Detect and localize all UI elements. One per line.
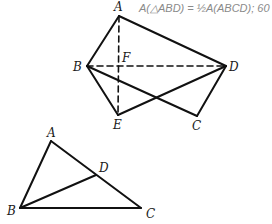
label-D2: D	[98, 161, 109, 175]
segment-AB	[87, 16, 119, 66]
label-B1: B	[72, 60, 82, 74]
segment-ED	[118, 66, 226, 115]
segment-AD	[119, 16, 226, 66]
geometry-figures: A B D F E C A B C D	[0, 0, 272, 224]
label-F1: F	[121, 51, 131, 65]
figure-2-triangle	[20, 141, 141, 208]
dashed-altitude-AE	[118, 16, 119, 115]
segment-AB-2	[20, 141, 51, 208]
label-C2: C	[146, 207, 155, 221]
label-D1: D	[228, 60, 239, 74]
label-A2: A	[46, 126, 56, 140]
figure-1-quadrilateral	[87, 16, 226, 116]
label-C1: C	[192, 119, 201, 133]
label-B2: B	[6, 204, 16, 218]
segment-BD-2	[20, 175, 96, 208]
label-A1: A	[113, 0, 123, 14]
figure-2-labels: A B C D	[6, 126, 155, 221]
label-E1: E	[112, 118, 122, 132]
